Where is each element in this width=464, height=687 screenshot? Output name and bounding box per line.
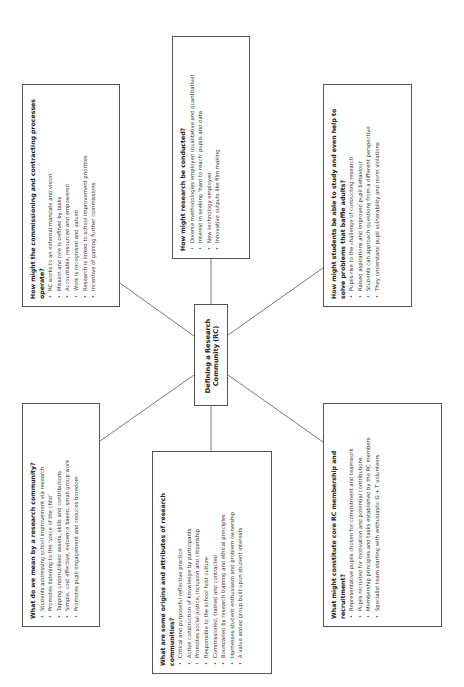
list-item: Specialist team starting with enthusiast… [373,410,382,611]
box-students-title: How might students be able to study and … [330,91,347,299]
list-item: Work is recognised and valued [72,91,81,291]
box-membership-title: What might constitute core RC membership… [330,410,347,619]
box-students-list: Pupils rise to the challenge of conducti… [347,91,381,299]
box-origins-list: Critical and purposeful reflective pract… [176,458,245,666]
list-item: Accountable, resourced and empowered [63,91,72,291]
list-item: Commissioned, trained and contracted [211,458,220,658]
box-meaning: What do we mean by a research community?… [22,403,100,627]
list-item: Tapping underutilised assets, skills and… [55,410,64,611]
box-commissioning-title: How might the commissioning and contract… [29,91,46,299]
connector-meaning [100,375,194,441]
box-commissioning-list: RC works to an external mandate and visi… [46,91,98,299]
list-item: Active construction of knowledge by part… [185,458,194,658]
center-title: Defining a Research Community (RC) [204,308,221,404]
list-item: Promotes social justice, inclusion and c… [193,458,202,658]
list-item: Students can approach questions from a d… [364,91,373,291]
box-conducted-title: How might research be conducted? [179,43,188,251]
list-item: Simple, cost effective, evidence based, … [63,410,72,611]
list-item: Boundaried by research training and ethi… [219,458,228,658]
list-item: Responsible to the school host culture [202,458,211,658]
box-membership: What might constitute core RC membership… [323,403,442,627]
list-item: Diverse methodologies employed (qualitat… [188,43,197,243]
list-item: Representative pupils chosen for commitm… [347,410,356,611]
connector-students [228,268,323,335]
list-item: New technology employed [205,43,214,243]
list-item: They understand pupil vulnerability and … [373,91,382,291]
box-conducted-list: Diverse methodologies employed (qualitat… [188,43,222,251]
list-item: Innovative outputs like film making [213,43,222,243]
connector-membership [228,375,323,442]
box-conducted: How might research be conducted? Diverse… [172,36,250,259]
list-item: A value added group built upon student i… [236,458,245,658]
box-origins: What are some origins and attributes of … [152,451,272,674]
box-students: How might students be able to study and … [323,84,412,307]
list-item: Raised aspirations and improved pupil be… [356,91,365,291]
list-item: Promotes pupil engagement and reduces bo… [72,410,81,611]
list-item: RC works to an external mandate and visi… [46,91,55,291]
list-item: Membership principles and tasks establis… [364,410,373,611]
list-item: Interest in seeking 'hard to reach' pupi… [196,43,205,243]
list-item: Critical and purposeful reflective pract… [176,458,185,658]
box-meaning-list: Students addressing school improvement v… [38,410,81,619]
box-origins-title: What are some origins and attributes of … [159,458,176,666]
list-item: Research is linked to school improvement… [81,91,90,291]
box-commissioning: How might the commissioning and contract… [22,84,120,307]
box-meaning-title: What do we mean by a research community? [29,410,38,619]
list-item: Pupils rise to the challenge of conducti… [347,91,356,291]
center-box: Defining a Research Community (RC) [194,304,228,406]
list-item: Pupils recruited for motivation and pote… [356,410,365,611]
list-item: Students addressing school improvement v… [38,410,47,611]
list-item: Incentive of gaining further commissions [89,91,98,291]
list-item: Mission and role is defined by tasks [55,91,64,291]
list-item: Harnesses student enthusiasm and problem… [228,458,237,658]
list-item: Promotes listening to the 'voice of the … [46,410,55,611]
connector-commissioning [120,283,194,336]
box-membership-list: Representative pupils chosen for commitm… [347,410,381,619]
